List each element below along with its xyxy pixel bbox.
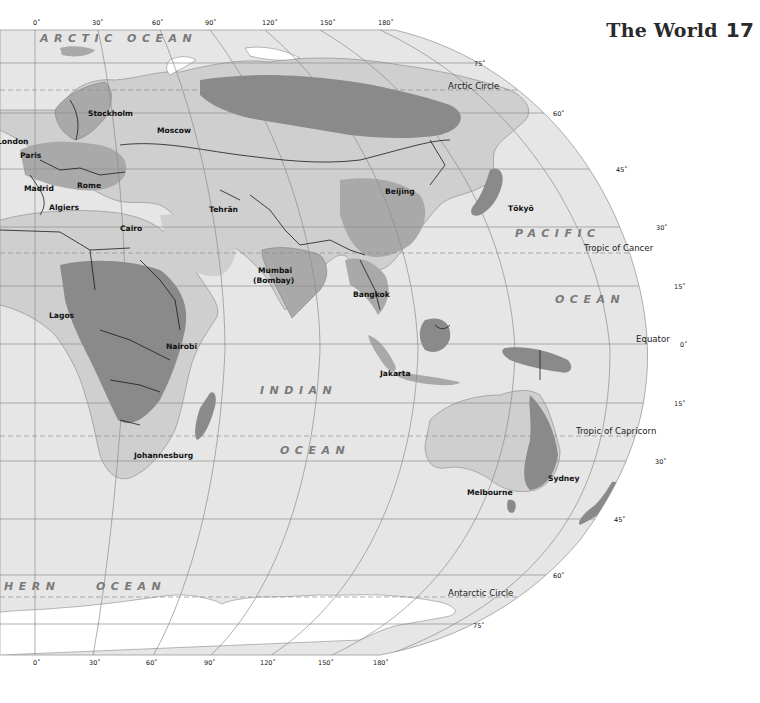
svg-text:Mumbai: Mumbai [258, 266, 292, 275]
svg-text:30˚: 30˚ [656, 224, 668, 232]
svg-text:180˚: 180˚ [378, 19, 394, 27]
longitude-labels-top: 0˚ 30˚ 60˚ 90˚ 120˚ 150˚ 180˚ [33, 19, 394, 27]
svg-text:Moscow: Moscow [157, 126, 191, 135]
svg-text:30˚: 30˚ [92, 19, 104, 27]
svg-text:Stockholm: Stockholm [88, 109, 133, 118]
svg-text:Beijing: Beijing [385, 187, 415, 196]
svg-text:Tehrān: Tehrān [209, 205, 238, 214]
svg-text:(Bombay): (Bombay) [253, 276, 294, 285]
svg-text:90˚: 90˚ [205, 19, 217, 27]
svg-text:Tropic of Capricorn: Tropic of Capricorn [575, 426, 656, 436]
svg-text:INDIAN: INDIAN [260, 384, 337, 397]
svg-text:120˚: 120˚ [262, 19, 278, 27]
svg-text:150˚: 150˚ [320, 19, 336, 27]
svg-text:15˚: 15˚ [674, 400, 686, 408]
svg-text:0˚: 0˚ [680, 341, 687, 349]
svg-text:15˚: 15˚ [674, 283, 686, 291]
svg-text:150˚: 150˚ [318, 659, 334, 667]
svg-text:OCEAN: OCEAN [280, 444, 350, 457]
world-map: 0˚ 30˚ 60˚ 90˚ 120˚ 150˚ 180˚ 0˚ 30˚ 60˚… [0, 0, 760, 703]
svg-text:Bangkok: Bangkok [353, 290, 391, 299]
svg-text:60˚: 60˚ [553, 110, 565, 118]
svg-text:OCEAN: OCEAN [96, 580, 166, 593]
svg-text:75˚: 75˚ [473, 622, 485, 630]
landmass-tasmania [507, 500, 516, 513]
svg-text:Jakarta: Jakarta [379, 369, 411, 378]
svg-text:0˚: 0˚ [33, 19, 40, 27]
svg-text:Rome: Rome [77, 181, 101, 190]
svg-text:PACIFIC: PACIFIC [515, 227, 601, 240]
svg-text:Paris: Paris [20, 151, 42, 160]
svg-text:60˚: 60˚ [152, 19, 164, 27]
svg-text:OCEAN: OCEAN [555, 293, 625, 306]
svg-text:Tropic of Cancer: Tropic of Cancer [583, 243, 654, 253]
svg-text:Antarctic Circle: Antarctic Circle [448, 588, 513, 598]
svg-text:60˚: 60˚ [146, 659, 158, 667]
svg-text:Lagos: Lagos [49, 311, 75, 320]
svg-text:90˚: 90˚ [204, 659, 216, 667]
svg-text:60˚: 60˚ [553, 572, 565, 580]
svg-text:180˚: 180˚ [373, 659, 389, 667]
svg-text:Tōkyō: Tōkyō [508, 204, 534, 213]
svg-text:Madrid: Madrid [24, 184, 54, 193]
svg-text:Sydney: Sydney [548, 474, 579, 483]
svg-text:0˚: 0˚ [33, 659, 40, 667]
svg-text:45˚: 45˚ [616, 166, 628, 174]
svg-text:30˚: 30˚ [89, 659, 101, 667]
svg-text:Johannesburg: Johannesburg [133, 451, 193, 460]
svg-text:Cairo: Cairo [120, 224, 142, 233]
svg-text:Equator: Equator [636, 334, 670, 344]
svg-text:Nairobi: Nairobi [166, 342, 197, 351]
svg-text:Algiers: Algiers [49, 203, 79, 212]
svg-text:ARCTIC OCEAN: ARCTIC OCEAN [39, 32, 197, 45]
svg-text:45˚: 45˚ [614, 516, 626, 524]
svg-text:London: London [0, 137, 29, 146]
svg-text:30˚: 30˚ [655, 458, 667, 466]
svg-text:120˚: 120˚ [260, 659, 276, 667]
longitude-labels-bottom: 0˚ 30˚ 60˚ 90˚ 120˚ 150˚ 180˚ [33, 659, 389, 667]
svg-text:Arctic Circle: Arctic Circle [448, 81, 499, 91]
svg-text:HERN: HERN [4, 580, 60, 593]
svg-text:75˚: 75˚ [474, 60, 486, 68]
svg-text:Melbourne: Melbourne [467, 488, 513, 497]
